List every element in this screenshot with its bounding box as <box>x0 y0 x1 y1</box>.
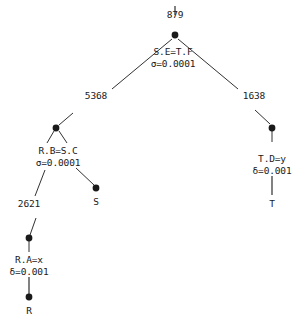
root-output-cardinality: 879 <box>167 9 184 20</box>
select-t-operator-label: T.D=y <box>258 153 286 164</box>
select-r-parameter-label: δ=0.001 <box>10 266 49 277</box>
root-parameter-label: σ=0.0001 <box>151 58 196 69</box>
node-dot-select-r <box>26 235 33 242</box>
node-dot-root <box>172 32 179 39</box>
relation-t-label: T <box>269 198 275 209</box>
query-plan-diagram: 879 S.E=T.F σ=0.0001 5368 1638 R.B=S.C σ… <box>0 0 301 327</box>
edge-join-rs-upper <box>59 113 73 125</box>
join-rs-operator-label: R.B=S.C <box>39 145 78 156</box>
select-t-parameter-label: δ=0.001 <box>253 165 292 176</box>
edge-select-r-upper <box>30 218 36 235</box>
root-operator-label: S.E=T.F <box>154 46 193 57</box>
left-edge-cardinality-label: 5368 <box>85 90 107 101</box>
node-dot-join-rs <box>53 125 60 132</box>
edge-select-t-upper <box>255 110 270 124</box>
select-r-edge-cardinality-label: 2621 <box>18 198 40 209</box>
node-dot-leaf-r <box>26 294 33 301</box>
edge-join-rs-left-stub <box>47 131 54 143</box>
relation-r-label: R <box>26 305 32 316</box>
node-dot-select-t <box>269 125 276 132</box>
edge-join-rs-to-select-r <box>35 170 45 196</box>
node-dot-leaf-s <box>93 185 100 192</box>
select-r-operator-label: R.A=x <box>15 254 43 265</box>
edge-join-rs-to-leaf-s <box>76 168 94 185</box>
right-edge-cardinality-label: 1638 <box>243 90 265 101</box>
relation-s-label: S <box>93 196 99 207</box>
join-rs-parameter-label: σ=0.0001 <box>36 157 81 168</box>
edge-join-rs-right-stub <box>59 131 67 143</box>
